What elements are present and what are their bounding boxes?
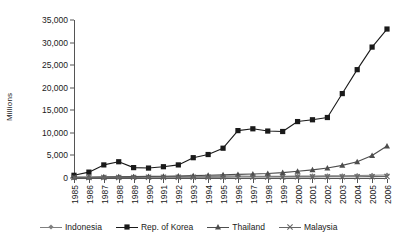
x-axis-ticks: 1985198619871988198919901991199219931994…: [74, 179, 387, 221]
legend-marker-triangle-icon: [207, 222, 229, 232]
x-axis-tick-label: 2005: [368, 185, 378, 204]
x-axis-tick-mark: [298, 179, 299, 183]
x-axis-tick-label: 1999: [279, 185, 289, 204]
x-axis-tick-label: 1995: [219, 185, 229, 204]
chart-legend: IndonesiaRep. of KoreaThailandMalaysia: [40, 218, 400, 236]
x-axis-tick-mark: [342, 179, 343, 183]
x-axis-tick-mark: [178, 179, 179, 183]
x-axis-tick-mark: [372, 179, 373, 183]
x-axis-tick-mark: [149, 179, 150, 183]
x-axis-tick-label: 2004: [353, 185, 363, 204]
legend-marker-square-icon: [116, 222, 138, 232]
plot-area: 05,00010,00015,00020,00025,00030,00035,0…: [74, 20, 387, 178]
x-axis-tick-mark: [193, 179, 194, 183]
x-axis-tick-mark: [387, 179, 388, 183]
x-axis-tick-label: 1990: [145, 185, 155, 204]
x-axis-tick-mark: [74, 179, 75, 183]
legend-marker-cross-icon: [279, 222, 301, 232]
x-axis-tick-label: 2000: [294, 185, 304, 204]
x-axis-tick-mark: [89, 179, 90, 183]
x-axis-tick-mark: [223, 179, 224, 183]
x-axis-tick-label: 1987: [100, 185, 110, 204]
x-axis-tick-label: 1985: [70, 185, 80, 204]
x-axis-tick-mark: [283, 179, 284, 183]
x-axis-tick-label: 1997: [249, 185, 259, 204]
legend-item-thailand[interactable]: Thailand: [207, 222, 265, 232]
legend-label: Thailand: [232, 222, 265, 232]
x-axis-tick-label: 2002: [323, 185, 333, 204]
x-axis-tick-label: 2001: [308, 185, 318, 204]
x-axis-tick-mark: [163, 179, 164, 183]
x-axis-tick-mark: [253, 179, 254, 183]
x-axis-tick-label: 2003: [338, 185, 348, 204]
legend-item-indonesia[interactable]: Indonesia: [40, 222, 102, 232]
x-axis-tick-label: 1994: [204, 185, 214, 204]
x-axis-tick-mark: [268, 179, 269, 183]
x-axis-tick-mark: [119, 179, 120, 183]
x-axis-tick-label: 1992: [174, 185, 184, 204]
series-rep-of-korea: [71, 26, 389, 177]
x-axis-tick-mark: [104, 179, 105, 183]
x-axis-tick-mark: [357, 179, 358, 183]
legend-marker-diamond-icon: [40, 222, 62, 232]
x-axis-tick-label: 1989: [130, 185, 140, 204]
x-axis-tick-label: 2006: [383, 185, 393, 204]
legend-label: Indonesia: [65, 222, 102, 232]
legend-item-rep-of-korea[interactable]: Rep. of Korea: [116, 222, 193, 232]
x-axis-tick-label: 1986: [85, 185, 95, 204]
x-axis-tick-label: 1991: [159, 185, 169, 204]
x-axis-tick-mark: [327, 179, 328, 183]
chart-container: Millions 05,00010,00015,00020,00025,0003…: [0, 0, 407, 240]
x-axis-tick-mark: [312, 179, 313, 183]
legend-label: Rep. of Korea: [141, 222, 193, 232]
x-axis-tick-label: 1996: [234, 185, 244, 204]
x-axis-tick-label: 1993: [189, 185, 199, 204]
x-axis-tick-label: 1998: [264, 185, 274, 204]
x-axis-tick-mark: [208, 179, 209, 183]
y-axis-title: Millions: [2, 52, 16, 162]
x-axis-tick-mark: [238, 179, 239, 183]
x-axis-tick-mark: [134, 179, 135, 183]
series-layer: [74, 20, 387, 178]
x-axis-tick-label: 1988: [115, 185, 125, 204]
legend-item-malaysia[interactable]: Malaysia: [279, 222, 338, 232]
legend-label: Malaysia: [304, 222, 338, 232]
